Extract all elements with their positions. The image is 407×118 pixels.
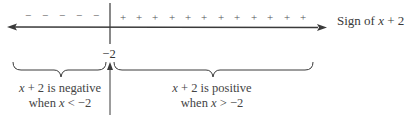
- right-arrow-icon: [317, 24, 327, 31]
- caption-text: when: [29, 96, 59, 110]
- negative-sign: −: [25, 10, 31, 21]
- positive-sign: +: [152, 12, 158, 23]
- number-line: [14, 27, 318, 28]
- positive-sign: +: [284, 12, 290, 23]
- positive-sign: +: [300, 12, 306, 23]
- caption-text: > −2: [217, 96, 244, 110]
- positive-sign: +: [218, 12, 224, 23]
- positive-sign: +: [136, 12, 142, 23]
- caption-text: + 2 is positive: [178, 81, 252, 95]
- negative-region-caption: x + 2 is negative when x < −2: [19, 81, 101, 111]
- sign-label-suffix: + 2: [384, 13, 404, 28]
- negative-sign: −: [59, 10, 65, 21]
- positive-sign: +: [169, 12, 175, 23]
- caption-text: when: [181, 96, 211, 110]
- positive-sign: +: [267, 12, 273, 23]
- sign-label: Sign of x + 2: [337, 13, 404, 29]
- positive-sign: +: [251, 12, 257, 23]
- negative-caption-line2: when x < −2: [19, 96, 101, 111]
- caption-text: + 2 is negative: [25, 81, 101, 95]
- positive-sign: +: [185, 12, 191, 23]
- negative-sign: −: [42, 10, 48, 21]
- left-brace: [13, 62, 106, 77]
- critical-point-label: −2: [102, 47, 115, 62]
- caption-text: < −2: [65, 96, 92, 110]
- positive-sign: +: [234, 12, 240, 23]
- negative-sign: −: [76, 10, 82, 21]
- positive-caption-line2: when x > −2: [172, 96, 251, 111]
- positive-sign: +: [120, 12, 126, 23]
- up-arrow-icon: [107, 62, 113, 70]
- negative-caption-line1: x + 2 is negative: [19, 81, 101, 96]
- positive-region-caption: x + 2 is positive when x > −2: [172, 81, 251, 111]
- right-brace: [114, 62, 313, 77]
- negative-sign: −: [93, 10, 99, 21]
- positive-caption-line1: x + 2 is positive: [172, 81, 251, 96]
- positive-sign: +: [201, 12, 207, 23]
- sign-label-prefix: Sign of: [337, 13, 378, 28]
